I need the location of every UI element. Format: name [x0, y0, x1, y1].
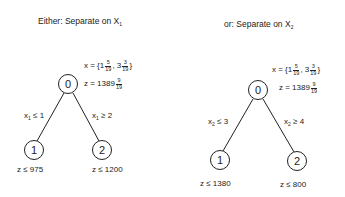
right-node-2: 2 [287, 151, 307, 171]
right-root-z-value: z = 1389919 [279, 82, 318, 94]
fraction: 519 [293, 64, 299, 76]
right-node-0: 0 [248, 80, 268, 100]
left-node-0: 0 [58, 74, 78, 94]
z-prefix: z = 1389 [84, 79, 115, 88]
right-tree-title: or: Separate on X2 [224, 20, 293, 29]
right-node-1-bound: z ≤ 1380 [200, 180, 231, 188]
left-title-text: Either: Separate on X [38, 16, 119, 26]
x-mid: , 3 [112, 61, 121, 70]
left-tree-title: Either: Separate on X1 [38, 17, 122, 26]
right-branch-left-label: x2 ≤ 3 [208, 118, 228, 126]
left-title-subscript: 1 [119, 21, 122, 27]
fraction: 919 [311, 82, 317, 94]
right-node-1: 1 [210, 150, 230, 170]
right-title-text: or: Separate on X [224, 19, 291, 29]
fraction: 919 [116, 78, 122, 90]
x-suffix: } [129, 61, 132, 70]
right-node-2-bound: z ≤ 800 [280, 181, 306, 189]
left-root-x-solution: x = {1519, 3319} [84, 60, 132, 72]
x-prefix: x = {1 [84, 61, 104, 70]
z-prefix: z = 1389 [279, 83, 310, 92]
x-mid: , 3 [300, 65, 309, 74]
left-branch-right-label: x1 ≥ 2 [92, 112, 112, 120]
x-suffix: } [317, 65, 320, 74]
left-branch-left-label: x1 ≤ 1 [24, 112, 44, 120]
fraction: 319 [310, 64, 316, 76]
fraction: 319 [122, 60, 128, 72]
x-prefix: x = {1 [272, 65, 292, 74]
left-node-1: 1 [24, 140, 44, 160]
fraction: 519 [105, 60, 111, 72]
left-node-1-bound: z ≤ 975 [17, 166, 43, 174]
right-branch-right-label: x2 ≥ 4 [284, 118, 304, 126]
left-node-2-bound: z ≤ 1200 [92, 166, 123, 174]
right-root-x-solution: x = {1519, 3319} [272, 64, 320, 76]
left-node-2: 2 [92, 140, 112, 160]
left-root-z-value: z = 1389919 [84, 78, 123, 90]
